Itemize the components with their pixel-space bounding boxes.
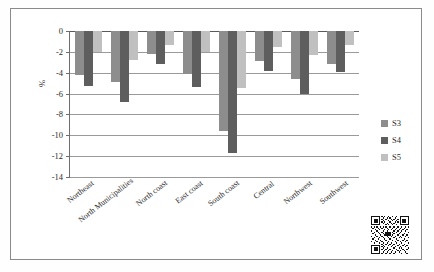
- y-axis-title: %: [37, 80, 47, 87]
- bar-fill: [273, 31, 282, 47]
- x-axis-label-cell: Central: [250, 179, 286, 237]
- bar-s5[interactable]: [129, 31, 138, 60]
- bar-fill: [129, 31, 138, 60]
- bar-group: [70, 31, 106, 177]
- bar-fill: [237, 31, 246, 88]
- x-axis-label: East coast: [174, 179, 205, 206]
- legend-item-s5[interactable]: S5: [381, 149, 427, 166]
- bar-fill: [300, 31, 309, 94]
- bar-s4[interactable]: [336, 31, 345, 72]
- y-axis-tick-label: -6: [56, 89, 63, 98]
- bar-fill: [201, 31, 210, 52]
- bar-s5[interactable]: [93, 31, 102, 52]
- bar-fill: [75, 31, 84, 75]
- bar-s5[interactable]: [201, 31, 210, 52]
- x-axis-label: Southwest: [318, 179, 350, 207]
- bar-s3[interactable]: [291, 31, 300, 79]
- y-axis-tick-label: -14: [52, 173, 63, 182]
- bar-s5[interactable]: [237, 31, 246, 88]
- x-axis-label-cell: Northwest: [287, 179, 323, 237]
- legend-swatch-icon: [381, 154, 388, 161]
- x-axis-label-cell: South coast: [214, 179, 250, 237]
- x-axis-label-cell: East coast: [178, 179, 214, 237]
- gridline: [70, 177, 359, 178]
- bar-fill: [93, 31, 102, 52]
- bar-s5[interactable]: [309, 31, 318, 55]
- bar-fill: [120, 31, 129, 102]
- bar-s5[interactable]: [165, 31, 174, 45]
- bar-fill: [192, 31, 201, 87]
- bar-s3[interactable]: [327, 31, 336, 64]
- bar-fill: [336, 31, 345, 72]
- bar-fill: [309, 31, 318, 55]
- bar-group: [178, 31, 214, 177]
- y-axis-tick-label: -8: [56, 110, 63, 119]
- bar-fill: [255, 31, 264, 61]
- plot-inner: 0-2-4-6-8-10-12-14: [69, 31, 359, 177]
- bar-s4[interactable]: [300, 31, 309, 94]
- legend-swatch-icon: [381, 137, 388, 144]
- bar-fill: [291, 31, 300, 79]
- bar-fill: [327, 31, 336, 64]
- bar-fill: [156, 31, 165, 64]
- bar-s3[interactable]: [111, 31, 120, 82]
- bar-fill: [183, 31, 192, 74]
- legend-swatch-icon: [381, 120, 388, 127]
- bar-group: [106, 31, 142, 177]
- legend-label: S5: [392, 153, 401, 162]
- x-axis-labels: NortheastNorth MunicipalitiesNorth coast…: [69, 179, 359, 237]
- x-axis-label: Northwest: [282, 179, 314, 207]
- x-axis-label-cell: Southwest: [323, 179, 359, 237]
- y-axis-tick: [66, 177, 70, 178]
- y-axis-tick-label: -12: [52, 152, 63, 161]
- bar-s4[interactable]: [228, 31, 237, 153]
- x-axis-label: Central: [252, 179, 276, 201]
- bar-s3[interactable]: [147, 31, 156, 54]
- bar-s3[interactable]: [75, 31, 84, 75]
- chart-frame: % 0-2-4-6-8-10-12-14 NortheastNorth Muni…: [10, 8, 422, 260]
- legend-item-s3[interactable]: S3: [381, 115, 427, 132]
- bar-s3[interactable]: [183, 31, 192, 74]
- bar-s5[interactable]: [273, 31, 282, 47]
- chart-legend: S3S4S5: [381, 115, 427, 166]
- bar-fill: [219, 31, 228, 131]
- bar-s5[interactable]: [345, 31, 354, 45]
- bar-group: [215, 31, 251, 177]
- legend-label: S4: [392, 136, 401, 145]
- bar-s4[interactable]: [264, 31, 273, 71]
- bar-fill: [165, 31, 174, 45]
- y-axis-tick-label: -2: [56, 48, 63, 57]
- bar-fill: [264, 31, 273, 71]
- x-axis-label-cell: North Municipalities: [105, 179, 141, 237]
- bar-s4[interactable]: [84, 31, 93, 86]
- bar-group: [287, 31, 323, 177]
- bar-s4[interactable]: [192, 31, 201, 87]
- x-axis-label-cell: North coast: [142, 179, 178, 237]
- bar-fill: [111, 31, 120, 82]
- y-axis-tick-label: -10: [52, 131, 63, 140]
- bar-fill: [84, 31, 93, 86]
- plot-area: 0-2-4-6-8-10-12-14: [69, 31, 359, 177]
- legend-label: S3: [392, 119, 401, 128]
- chart-screenshot: % 0-2-4-6-8-10-12-14 NortheastNorth Muni…: [0, 0, 434, 272]
- x-axis-label: Northeast: [66, 179, 96, 205]
- bar-s3[interactable]: [255, 31, 264, 61]
- bar-s4[interactable]: [120, 31, 129, 102]
- bar-fill: [147, 31, 156, 54]
- legend-item-s4[interactable]: S4: [381, 132, 427, 149]
- bar-fill: [228, 31, 237, 153]
- y-axis-tick-label: -4: [56, 68, 63, 77]
- bar-groups: [70, 31, 359, 177]
- bar-s4[interactable]: [156, 31, 165, 64]
- bar-group: [251, 31, 287, 177]
- bar-group: [323, 31, 359, 177]
- qr-code-icon: [369, 214, 411, 256]
- bar-s3[interactable]: [219, 31, 228, 131]
- bar-group: [142, 31, 178, 177]
- bar-fill: [345, 31, 354, 45]
- y-axis-tick-label: 0: [59, 27, 63, 36]
